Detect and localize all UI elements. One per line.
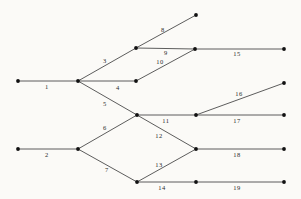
edge-label-4: 4 — [116, 85, 120, 92]
node-diamond-bottom — [135, 180, 139, 184]
node-diamond-right — [194, 147, 198, 151]
edge-5 — [78, 81, 137, 115]
edge-label-11: 11 — [162, 118, 169, 125]
node-terminal-19 — [282, 180, 286, 184]
node-merge-middle — [194, 113, 198, 117]
edge-label-15: 15 — [233, 51, 241, 58]
edge-6 — [78, 115, 137, 149]
node-terminal-17 — [282, 113, 286, 117]
edge-label-5: 5 — [103, 101, 107, 108]
node-upper-branch-top — [134, 46, 138, 50]
node-diamond-left — [135, 113, 139, 117]
edges-layer — [18, 15, 284, 182]
edge-label-2: 2 — [45, 152, 49, 159]
node-upper-branch-mid — [134, 79, 138, 83]
edge-label-17: 17 — [233, 118, 241, 125]
edge-label-3: 3 — [103, 58, 107, 65]
node-terminal-16 — [282, 81, 286, 85]
edge-label-12: 12 — [155, 133, 163, 140]
edge-label-7: 7 — [105, 167, 109, 174]
graph-svg — [0, 0, 301, 199]
edge-label-13: 13 — [155, 162, 163, 169]
node-upper-fork — [76, 79, 80, 83]
edge-label-10: 10 — [156, 59, 164, 66]
edge-13 — [137, 149, 196, 182]
nodes-layer — [16, 13, 286, 184]
node-sink-topmost — [194, 13, 198, 17]
edge-label-18: 18 — [233, 152, 241, 159]
edge-16 — [196, 83, 284, 115]
node-bottom-mid — [194, 180, 198, 184]
edge-label-14: 14 — [158, 185, 166, 192]
edge-3 — [78, 48, 136, 81]
node-terminal-15 — [282, 47, 286, 51]
diagram-canvas: 12345678910111213141516171819 — [0, 0, 301, 199]
edge-label-8: 8 — [161, 27, 165, 34]
edge-label-19: 19 — [233, 185, 241, 192]
node-source-lower — [16, 147, 20, 151]
edge-label-1: 1 — [45, 84, 49, 91]
node-merge-upper — [193, 47, 197, 51]
node-terminal-18 — [282, 147, 286, 151]
edge-label-9: 9 — [164, 50, 168, 57]
edge-label-6: 6 — [103, 125, 107, 132]
node-lower-fork — [76, 147, 80, 151]
edge-label-16: 16 — [235, 91, 243, 98]
edge-8 — [136, 15, 196, 48]
node-source-upper — [16, 79, 20, 83]
